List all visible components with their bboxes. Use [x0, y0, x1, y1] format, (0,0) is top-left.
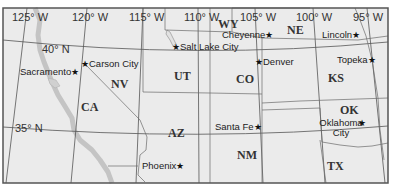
city-name: Salt Lake City: [180, 41, 239, 52]
state-label-co: CO: [236, 73, 254, 85]
capital-star-icon: ★: [368, 55, 376, 65]
capital-star-icon: ★: [265, 30, 273, 40]
city-santa-fe: Santa Fe★: [215, 122, 262, 132]
state-label-ca: CA: [81, 101, 98, 113]
capital-star-icon: ★: [81, 59, 89, 69]
longitude-label-115w: 115° W: [129, 12, 164, 23]
state-label-tx: TX: [327, 160, 344, 172]
latitude-label-40n: 40° N: [42, 44, 70, 55]
city-cheyenne: Cheyenne★: [222, 30, 273, 40]
longitude-label-120w: 120° W: [72, 12, 108, 23]
state-label-nm: NM: [237, 149, 257, 161]
state-label-az: AZ: [168, 127, 185, 139]
longitude-label-105w: 105° W: [240, 12, 276, 23]
city-carson-city: ★Carson City: [81, 59, 139, 69]
city-name: Sacramento: [20, 66, 71, 77]
capital-star-icon: ★: [358, 118, 366, 128]
capital-star-icon: ★: [172, 42, 180, 52]
city-salt-lake-city: ★Salt Lake City: [172, 42, 239, 52]
city-sacramento: Sacramento★: [20, 67, 79, 77]
longitude-label-95w: 95° W: [353, 12, 383, 23]
city-name: Topeka: [337, 54, 368, 65]
state-label-ut: UT: [174, 70, 191, 82]
city-lincoln: Lincoln★: [322, 30, 360, 40]
city-name: Lincoln: [322, 29, 352, 40]
state-label-ok: OK: [340, 104, 359, 116]
longitude-label-125w: 125° W: [12, 12, 48, 23]
city-name: Oklahoma City: [319, 117, 362, 138]
city-phoenix: Phoenix★: [142, 161, 184, 171]
state-label-ks: KS: [328, 72, 344, 84]
latitude-label-35n: 35° N: [15, 123, 43, 134]
city-name: Phoenix: [142, 160, 176, 171]
city-name: Carson City: [89, 58, 139, 69]
state-label-nv: NV: [111, 78, 128, 90]
capital-star-icon: ★: [176, 161, 184, 171]
longitude-label-100w: 100° W: [296, 12, 332, 23]
capital-star-icon: ★: [255, 57, 263, 67]
longitude-label-110w: 110° W: [184, 12, 219, 23]
capital-star-icon: ★: [352, 30, 360, 40]
city-name: Santa Fe: [215, 121, 254, 132]
city-name: Denver: [263, 56, 294, 67]
city-oklahoma-city: Oklahoma City★: [311, 118, 371, 138]
city-denver: ★Denver: [255, 57, 294, 67]
city-name: Cheyenne: [222, 29, 265, 40]
capital-star-icon: ★: [254, 122, 262, 132]
city-topeka: Topeka★: [337, 55, 376, 65]
state-label-ne: NE: [287, 24, 304, 36]
capital-star-icon: ★: [71, 67, 79, 77]
